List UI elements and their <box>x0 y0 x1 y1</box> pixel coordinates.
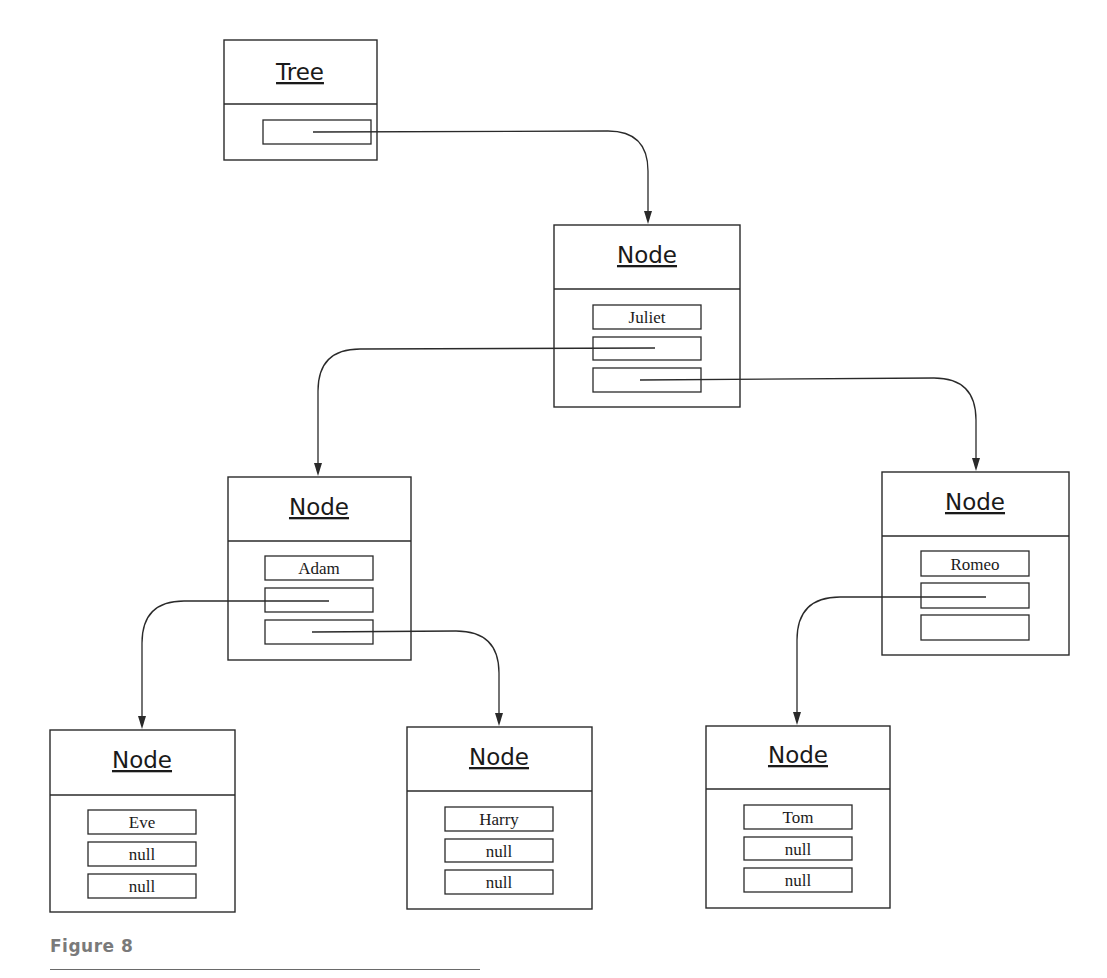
node-title: Node <box>289 494 349 520</box>
left-null: null <box>486 842 513 861</box>
node-title: Node <box>617 242 677 268</box>
node-title: Node <box>112 747 172 773</box>
right-null: null <box>129 877 156 896</box>
node-eve: Node Eve null null <box>50 730 235 912</box>
right-ref-field <box>921 615 1029 640</box>
right-null: null <box>486 873 513 892</box>
node-romeo: Node Romeo <box>882 472 1069 655</box>
left-ref-field <box>265 588 373 612</box>
node-value: Eve <box>129 813 155 832</box>
left-null: null <box>129 845 156 864</box>
node-value: Tom <box>783 808 814 827</box>
node-value: Harry <box>479 810 519 829</box>
left-ref-field <box>921 583 1029 608</box>
node-value: Adam <box>298 559 340 578</box>
node-tom: Node Tom null null <box>706 726 890 908</box>
node-value: Romeo <box>950 555 999 574</box>
node-harry: Node Harry null null <box>407 727 592 909</box>
node-value: Juliet <box>629 308 666 327</box>
node-title: Node <box>945 489 1005 515</box>
caption-divider <box>50 969 480 970</box>
figure-caption: Figure 8 <box>50 936 133 956</box>
left-null: null <box>785 840 812 859</box>
right-null: null <box>785 871 812 890</box>
tree-object: Tree <box>224 40 377 160</box>
tree-title: Tree <box>275 59 324 85</box>
node-title: Node <box>768 742 828 768</box>
tree-diagram: Tree Node Juliet Node Adam Node Romeo No… <box>0 0 1107 978</box>
node-title: Node <box>469 744 529 770</box>
